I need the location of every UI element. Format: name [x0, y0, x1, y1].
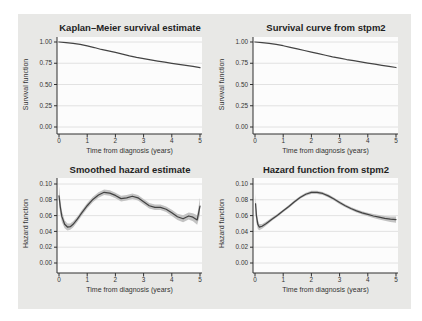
y-tick-label: 0.25: [236, 102, 249, 109]
y-tick-label: 0.00: [40, 259, 53, 266]
x-axis-label: Time from diagnosis (years): [282, 147, 369, 155]
y-tick-label: 0.00: [40, 123, 53, 130]
y-tick-label: 0.75: [40, 59, 53, 66]
y-axis-label: Survival function: [22, 59, 29, 110]
y-tick-label: 0.50: [236, 81, 249, 88]
plot-hazard-stpm2: Hazard function from stpm2 0.000.020.040…: [214, 161, 411, 309]
x-tick-label: 5: [394, 137, 398, 144]
y-tick-label: 0.04: [236, 228, 249, 235]
x-tick-label: 5: [198, 276, 202, 283]
x-tick-label: 3: [142, 137, 146, 144]
x-tick-label: 1: [281, 276, 285, 283]
x-tick-label: 0: [253, 276, 257, 283]
y-tick-label: 0.02: [236, 243, 249, 250]
survival-chart-km: 0.000.250.500.751.00012345Time from diag…: [18, 14, 214, 161]
y-tick-label: 0.75: [236, 59, 249, 66]
x-tick-label: 3: [142, 276, 146, 283]
x-tick-label: 5: [198, 137, 202, 144]
y-tick-label: 0.10: [236, 180, 249, 187]
y-tick-label: 0.02: [40, 243, 53, 250]
x-tick-label: 4: [170, 137, 174, 144]
y-tick-label: 1.00: [40, 38, 53, 45]
y-tick-label: 0.50: [40, 81, 53, 88]
x-axis-label: Time from diagnosis (years): [86, 147, 173, 155]
plot-area: [57, 178, 202, 273]
page-background: Kaplan–Meier survival estimate 0.000.250…: [0, 0, 422, 321]
y-tick-label: 0.25: [40, 102, 53, 109]
y-tick-label: 0.10: [40, 180, 53, 187]
plot-area: [57, 37, 202, 134]
x-tick-label: 1: [85, 137, 89, 144]
y-tick-label: 0.08: [236, 196, 249, 203]
x-tick-label: 2: [310, 276, 314, 283]
x-tick-label: 5: [394, 276, 398, 283]
x-axis-label: Time from diagnosis (years): [86, 286, 173, 294]
x-tick-label: 0: [57, 137, 61, 144]
x-tick-label: 0: [57, 276, 61, 283]
y-tick-label: 1.00: [236, 38, 249, 45]
x-tick-label: 2: [114, 276, 118, 283]
figure-canvas: Kaplan–Meier survival estimate 0.000.250…: [18, 14, 411, 309]
y-tick-label: 0.06: [236, 212, 249, 219]
x-tick-label: 0: [253, 137, 257, 144]
plot-area: [253, 178, 398, 273]
x-tick-label: 1: [281, 137, 285, 144]
x-tick-label: 4: [366, 276, 370, 283]
y-axis-label: Hazard function: [218, 199, 225, 248]
y-axis-label: Hazard function: [22, 199, 29, 248]
y-tick-label: 0.00: [236, 123, 249, 130]
x-axis-label: Time from diagnosis (years): [282, 286, 369, 294]
plot-smoothed-hazard: Smoothed hazard estimate 0.000.020.040.0…: [18, 161, 214, 309]
survival-chart-stpm2: 0.000.250.500.751.00012345Time from diag…: [214, 14, 410, 161]
x-tick-label: 2: [114, 137, 118, 144]
x-tick-label: 1: [85, 276, 89, 283]
y-tick-label: 0.08: [40, 196, 53, 203]
plot-area: [253, 37, 398, 134]
y-tick-label: 0.00: [236, 259, 249, 266]
hazard-chart-smoothed: 0.000.020.040.060.080.10012345Time from …: [18, 161, 214, 309]
plot-survival-stpm2: Survival curve from stpm2 0.000.250.500.…: [214, 14, 411, 161]
x-tick-label: 3: [338, 276, 342, 283]
y-tick-label: 0.04: [40, 228, 53, 235]
plot-kaplan-meier-survival: Kaplan–Meier survival estimate 0.000.250…: [18, 14, 214, 161]
x-tick-label: 3: [338, 137, 342, 144]
x-tick-label: 2: [310, 137, 314, 144]
x-tick-label: 4: [366, 137, 370, 144]
hazard-chart-stpm2: 0.000.020.040.060.080.10012345Time from …: [214, 161, 410, 309]
y-tick-label: 0.06: [40, 212, 53, 219]
y-axis-label: Survival function: [218, 59, 225, 110]
x-tick-label: 4: [170, 276, 174, 283]
